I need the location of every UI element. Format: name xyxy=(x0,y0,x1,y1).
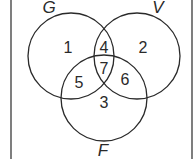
venn-diagram: G V F 1 2 3 4 5 6 7 xyxy=(0,0,195,159)
region-label-g-v-f: 7 xyxy=(100,60,109,77)
region-label-v-f: 6 xyxy=(121,71,130,88)
region-label-f-only: 3 xyxy=(100,94,109,111)
region-label-g-v: 4 xyxy=(100,39,109,56)
set-label-f: F xyxy=(98,141,110,159)
region-label-g-f: 5 xyxy=(75,74,84,91)
set-circle-v xyxy=(94,13,180,99)
region-label-g-only: 1 xyxy=(64,39,73,56)
set-circle-g xyxy=(28,13,114,99)
set-label-g: G xyxy=(42,0,55,17)
region-label-v-only: 2 xyxy=(139,39,148,56)
set-label-v: V xyxy=(152,0,165,17)
